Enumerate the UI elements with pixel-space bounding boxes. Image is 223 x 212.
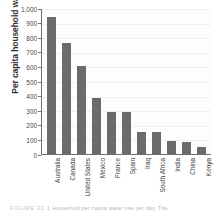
- y-axis-tick-label: 900: [12, 19, 37, 28]
- x-axis-tick-label: Iraq: [144, 158, 151, 169]
- figure-caption: FIGURE 22-1 Household per capita water u…: [10, 204, 216, 212]
- bar[interactable]: [47, 17, 56, 154]
- x-axis-tick-label-slot: Spain: [121, 156, 130, 204]
- x-axis-tick-label-slot: China: [182, 156, 191, 204]
- y-axis-tick-label: 700: [12, 48, 37, 57]
- bar[interactable]: [182, 142, 191, 154]
- x-axis-tick-label-slot: France: [106, 156, 115, 204]
- x-axis-tick-label: Spain: [129, 158, 136, 174]
- y-axis-tick-label: 0: [12, 151, 37, 160]
- bar[interactable]: [122, 112, 131, 154]
- x-axis-tick-label: Canada: [69, 158, 76, 180]
- bar[interactable]: [152, 132, 161, 154]
- bar[interactable]: [77, 66, 86, 154]
- y-axis-tick-label: 500: [12, 78, 37, 87]
- x-axis-tick-label: Kenya: [205, 158, 212, 176]
- x-axis-tick-label: South Africa: [159, 158, 166, 192]
- x-axis-tick-label: India: [174, 158, 181, 172]
- chart-figure: Per capita household water use (L) 1,000…: [0, 0, 223, 212]
- x-axis-tick-label-slot: Kenya: [197, 156, 206, 204]
- x-axis-tick-label-slot: Canada: [61, 156, 70, 204]
- x-axis-tick-label-slot: Iraq: [137, 156, 146, 204]
- x-axis-tick-labels: AustraliaCanadaUnited StatesMexicoFrance…: [41, 156, 211, 204]
- y-axis-tick-label: 400: [12, 92, 37, 101]
- bar[interactable]: [62, 43, 71, 154]
- plot-area: [41, 9, 211, 155]
- y-axis-tick-labels: 1,0009008007006005004003002001000: [12, 9, 37, 155]
- figure-caption-text: Household per capita water use per day. …: [52, 205, 167, 211]
- y-axis-tick-label: 100: [12, 136, 37, 145]
- x-axis-tick-label: Mexico: [99, 158, 106, 178]
- x-axis-tick-label-slot: Mexico: [91, 156, 100, 204]
- bar[interactable]: [107, 112, 116, 154]
- bar-series: [42, 9, 211, 154]
- x-axis-tick-label: France: [114, 158, 121, 178]
- x-axis-tick-label: Australia: [54, 158, 61, 183]
- bar[interactable]: [92, 98, 101, 154]
- figure-caption-number: FIGURE 22-1: [10, 205, 50, 211]
- x-axis-tick-label-slot: Australia: [46, 156, 55, 204]
- y-axis-tick-label: 200: [12, 121, 37, 130]
- x-axis-tick-label: China: [189, 158, 196, 175]
- x-axis-tick-label-slot: United States: [76, 156, 85, 204]
- bar[interactable]: [167, 141, 176, 154]
- y-axis-tick-label: 600: [12, 63, 37, 72]
- bar[interactable]: [197, 147, 206, 154]
- bar[interactable]: [137, 132, 146, 154]
- x-axis-tick-label-slot: South Africa: [152, 156, 161, 204]
- y-axis-tick-label: 1,000: [12, 5, 37, 14]
- x-axis-tick-label: United States: [84, 158, 91, 196]
- y-axis-tick-label: 800: [12, 34, 37, 43]
- x-axis-tick-label-slot: India: [167, 156, 176, 204]
- y-axis-tick-label: 300: [12, 107, 37, 116]
